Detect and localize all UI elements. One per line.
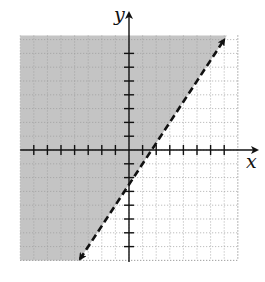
inequality-graph: y x [0, 0, 265, 282]
y-axis-label: y [113, 3, 125, 25]
x-axis-label: x [246, 150, 257, 172]
shade-polygon [20, 35, 227, 260]
shaded-region [20, 35, 227, 260]
